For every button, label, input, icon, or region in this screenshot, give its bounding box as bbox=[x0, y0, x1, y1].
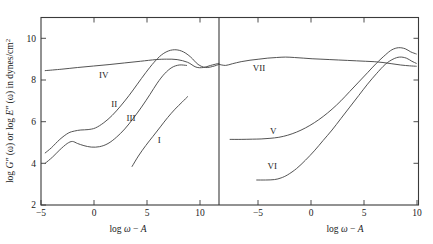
left-x-axis-title: log ω − A bbox=[109, 224, 146, 234]
figure-container: 10 8 6 4 2 log G″ (ω) or log E″ (ω) in d… bbox=[0, 0, 433, 244]
right-x-axis-ticks bbox=[258, 18, 417, 206]
curve-label-V: V bbox=[270, 126, 277, 136]
right-panel-curves bbox=[219, 48, 416, 180]
plot-frame bbox=[41, 18, 419, 206]
curve-VI bbox=[257, 57, 417, 180]
curve-label-III: III bbox=[127, 113, 136, 123]
right-x-tick-label--5: −5 bbox=[253, 208, 263, 218]
curve-IV bbox=[45, 59, 219, 70]
y-axis-title-p5: (ω) in dynes/cm bbox=[5, 42, 16, 104]
left-x-tick-label-5: 5 bbox=[145, 208, 150, 218]
curve-label-I: I bbox=[158, 135, 161, 145]
curve-III bbox=[45, 65, 186, 163]
left-x-tick-label-10: 10 bbox=[195, 208, 205, 218]
left-x-axis-title-A: A bbox=[140, 224, 147, 234]
left-x-axis-title-log: log bbox=[109, 224, 121, 234]
y-axis-title: log G″ (ω) or log E″ (ω) in dynes/cm2 bbox=[4, 38, 17, 183]
curve-I bbox=[132, 97, 188, 167]
y-axis-title-p3: (ω) or log bbox=[5, 118, 16, 156]
curve-label-VII: VII bbox=[253, 63, 266, 73]
right-x-axis-title-A: A bbox=[357, 224, 364, 234]
left-x-axis-ticks bbox=[41, 18, 200, 206]
y-tick-label-6: 6 bbox=[31, 117, 36, 127]
curve-label-IV: IV bbox=[99, 70, 109, 80]
y-tick-label-8: 8 bbox=[31, 75, 36, 85]
right-x-tick-label-5: 5 bbox=[362, 208, 367, 218]
y-tick-label-4: 4 bbox=[31, 159, 36, 169]
right-x-tick-label-10: 10 bbox=[412, 208, 422, 218]
svg-text:log G″ (ω) or log E″ (ω) in dy: log G″ (ω) or log E″ (ω) in dynes/cm2 bbox=[4, 38, 17, 183]
y-axis-title-p1: log bbox=[5, 171, 15, 183]
y-axis-ticks bbox=[41, 38, 46, 205]
y-axis-ticks-right bbox=[414, 38, 419, 163]
left-x-tick-label--5: −5 bbox=[36, 208, 46, 218]
curve-VII bbox=[219, 57, 416, 66]
curve-labels: IIIIIIIVVVIVII bbox=[99, 63, 277, 172]
right-x-tick-label-0: 0 bbox=[309, 208, 314, 218]
right-x-axis-title-log: log bbox=[326, 224, 338, 234]
right-x-axis-title: log ω − A bbox=[326, 224, 363, 234]
left-x-tick-label-0: 0 bbox=[92, 208, 97, 218]
curve-label-VI: VI bbox=[267, 161, 277, 171]
curve-label-II: II bbox=[111, 99, 117, 109]
y-axis-title-exponent: 2 bbox=[4, 38, 11, 42]
chart-svg: 10 8 6 4 2 log G″ (ω) or log E″ (ω) in d… bbox=[0, 0, 433, 244]
y-tick-label-10: 10 bbox=[27, 34, 37, 44]
left-panel-curves bbox=[45, 50, 219, 167]
